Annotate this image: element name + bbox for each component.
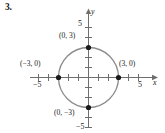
x-axis-tick-label-minus5: −5 <box>33 81 42 89</box>
y-axis-tick-label-minus5: −5 <box>76 123 85 131</box>
x-axis-tick-label-5: 5 <box>138 81 142 89</box>
data-point-left <box>56 75 61 80</box>
textbook-figure: 3. <box>0 0 165 133</box>
data-point-right <box>116 75 121 80</box>
point-label-top: (0, 3) <box>59 32 75 40</box>
point-label-right: (3, 0) <box>119 60 135 68</box>
y-axis-label: y <box>91 8 95 16</box>
y-axis-tick-label-5: 5 <box>78 20 82 28</box>
x-axis-label: x <box>153 79 157 87</box>
data-point-bottom <box>86 105 91 110</box>
point-label-left: (−3, 0) <box>20 60 40 68</box>
data-point-top <box>86 45 91 50</box>
point-label-bottom: (0, −3) <box>54 109 74 117</box>
